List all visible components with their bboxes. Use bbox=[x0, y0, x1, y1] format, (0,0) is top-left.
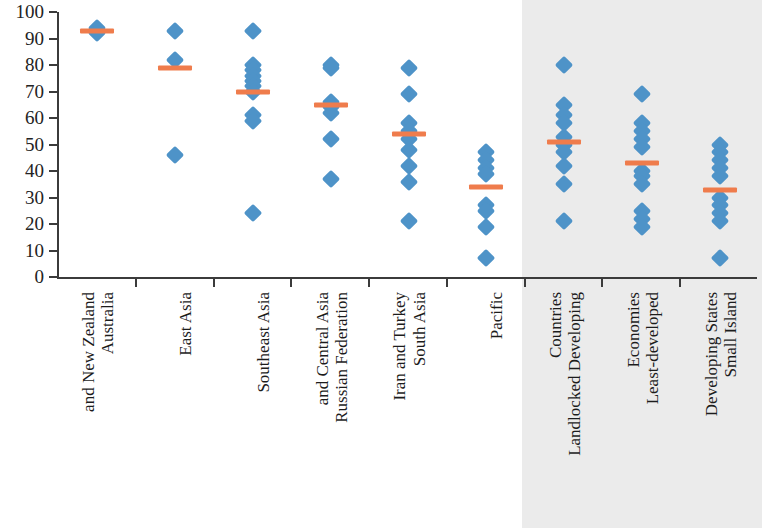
group-mean-marker bbox=[703, 187, 737, 192]
x-tick bbox=[446, 279, 448, 287]
y-tick-label: 50 bbox=[0, 135, 44, 154]
y-tick-label: 0 bbox=[0, 267, 44, 286]
category-label-8: Small IslandDeveloping States bbox=[700, 292, 740, 524]
data-point-marker bbox=[477, 217, 495, 235]
data-point-marker bbox=[399, 212, 417, 230]
data-point-marker bbox=[399, 156, 417, 174]
category-label-line: Southeast Asia bbox=[254, 292, 273, 393]
data-point-marker bbox=[166, 21, 184, 39]
category-label-1: East Asia bbox=[155, 292, 195, 524]
y-tick-label: 80 bbox=[0, 55, 44, 74]
y-tick bbox=[49, 117, 57, 119]
x-axis-line bbox=[57, 277, 757, 279]
y-tick-label: 70 bbox=[0, 82, 44, 101]
group-mean-marker bbox=[236, 89, 270, 94]
category-label-line: Iran and Turkey bbox=[390, 292, 409, 401]
category-label-line: and New Zealand bbox=[79, 292, 98, 412]
y-tick-label: 20 bbox=[0, 214, 44, 233]
y-tick bbox=[49, 64, 57, 66]
y-tick bbox=[49, 276, 57, 278]
x-tick bbox=[679, 279, 681, 287]
category-label-3: Russian Federationand Central Asia bbox=[311, 292, 351, 524]
category-label-line: Least-developed bbox=[643, 292, 662, 404]
data-point-marker bbox=[244, 204, 262, 222]
x-tick bbox=[524, 279, 526, 287]
data-point-marker bbox=[244, 21, 262, 39]
category-label-5: Pacific bbox=[466, 292, 506, 524]
group-mean-marker bbox=[314, 102, 348, 107]
x-tick bbox=[368, 279, 370, 287]
y-tick bbox=[49, 250, 57, 252]
x-tick bbox=[135, 279, 137, 287]
category-label-line: Pacific bbox=[487, 292, 506, 339]
category-label-line: Australia bbox=[98, 292, 117, 354]
group-mean-marker bbox=[547, 139, 581, 144]
y-tick-label: 10 bbox=[0, 241, 44, 260]
category-label-line: Russian Federation bbox=[332, 292, 351, 423]
category-label-2: Southeast Asia bbox=[233, 292, 273, 524]
category-label-6: Landlocked DevelopingCountries bbox=[544, 292, 584, 524]
y-tick-label: 30 bbox=[0, 188, 44, 207]
group-mean-marker bbox=[392, 131, 426, 136]
data-point-marker bbox=[399, 85, 417, 103]
group-mean-marker bbox=[625, 161, 659, 166]
category-label-4: South AsiaIran and Turkey bbox=[389, 292, 429, 524]
y-tick-label: 40 bbox=[0, 161, 44, 180]
data-point-marker bbox=[166, 146, 184, 164]
category-label-7: Least-developedEconomies bbox=[622, 292, 662, 524]
dot-plot-chart: 0102030405060708090100 Australiaand New … bbox=[0, 0, 762, 528]
group-mean-marker bbox=[469, 184, 503, 189]
category-label-line: Landlocked Developing bbox=[565, 292, 584, 456]
y-tick bbox=[49, 144, 57, 146]
x-tick bbox=[601, 279, 603, 287]
y-tick bbox=[49, 223, 57, 225]
category-label-line: East Asia bbox=[176, 292, 195, 356]
category-label-line: South Asia bbox=[410, 292, 429, 366]
group-mean-marker bbox=[80, 28, 114, 33]
y-tick bbox=[49, 170, 57, 172]
data-point-marker bbox=[399, 58, 417, 76]
category-label-line: Small Island bbox=[721, 292, 740, 377]
y-tick-label: 100 bbox=[0, 2, 44, 21]
y-tick-label: 90 bbox=[0, 29, 44, 48]
category-label-line: and Central Asia bbox=[313, 292, 332, 405]
data-point-marker bbox=[477, 249, 495, 267]
x-tick bbox=[213, 279, 215, 287]
category-label-line: Developing States bbox=[702, 292, 721, 416]
data-point-marker bbox=[322, 130, 340, 148]
x-tick bbox=[290, 279, 292, 287]
y-tick bbox=[49, 11, 57, 13]
category-label-0: Australiaand New Zealand bbox=[77, 292, 117, 524]
y-axis-line bbox=[57, 12, 59, 278]
data-point-marker bbox=[399, 172, 417, 190]
y-tick bbox=[49, 197, 57, 199]
category-label-line: Countries bbox=[546, 292, 565, 358]
y-tick bbox=[49, 38, 57, 40]
y-tick-label: 60 bbox=[0, 108, 44, 127]
data-point-marker bbox=[322, 170, 340, 188]
y-tick bbox=[49, 91, 57, 93]
group-mean-marker bbox=[158, 65, 192, 70]
category-label-line: Economies bbox=[624, 292, 643, 368]
